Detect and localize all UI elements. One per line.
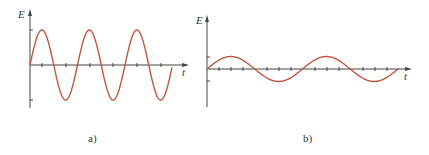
caption-b: b) (303, 132, 312, 144)
y-label-b: E (196, 14, 203, 26)
x-label-b: t (404, 70, 407, 82)
x-label-a: t (182, 66, 185, 78)
panel-a (28, 9, 189, 108)
diagram-canvas (0, 0, 429, 155)
panel-b (205, 15, 412, 107)
caption-a: a) (88, 132, 97, 144)
y-axis-arrow-b (205, 15, 209, 22)
y-label-a: E (18, 8, 25, 20)
y-axis-arrow-a (28, 9, 32, 16)
